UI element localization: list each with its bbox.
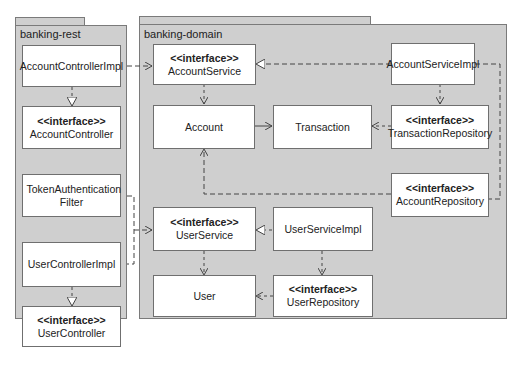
class-user-service-impl[interactable]: UserServiceImpl	[273, 207, 373, 251]
stereotype-label: <<interface>>	[406, 114, 474, 127]
class-name: UserRepository	[287, 296, 359, 309]
class-user-service[interactable]: <<interface>> UserService	[153, 207, 256, 251]
stereotype-label: <<interface>>	[406, 182, 474, 195]
class-name: AccountRepository	[396, 195, 484, 208]
class-name: Transaction	[295, 121, 349, 134]
class-account[interactable]: Account	[153, 105, 255, 149]
class-token-authentication-filter[interactable]: TokenAuthentication Filter	[22, 174, 121, 217]
class-name: TransactionRepository	[388, 127, 493, 140]
class-name: UserServiceImpl	[284, 223, 361, 236]
class-account-service-impl[interactable]: AccountServiceImpl	[391, 43, 475, 85]
class-name: AccountControllerImpl	[20, 60, 123, 73]
class-name: UserControllerImpl	[28, 258, 116, 271]
class-account-controller-impl[interactable]: AccountControllerImpl	[22, 45, 121, 87]
class-name: Account	[185, 121, 223, 134]
stereotype-label: <<interface>>	[289, 283, 357, 296]
class-name: UserController	[38, 327, 106, 340]
class-user[interactable]: User	[153, 275, 256, 317]
class-user-controller-impl[interactable]: UserControllerImpl	[22, 242, 121, 287]
stereotype-label: <<interface>>	[37, 115, 105, 128]
class-transaction-repository[interactable]: <<interface>> TransactionRepository	[391, 105, 489, 149]
class-transaction[interactable]: Transaction	[273, 105, 372, 149]
stereotype-label: <<interface>>	[37, 314, 105, 327]
class-account-repository[interactable]: <<interface>> AccountRepository	[391, 173, 489, 217]
class-name: AccountServiceImpl	[387, 58, 480, 71]
class-account-controller[interactable]: <<interface>> AccountController	[22, 106, 121, 149]
class-name: TokenAuthentication Filter	[27, 183, 117, 209]
class-user-controller[interactable]: <<interface>> UserController	[22, 306, 121, 347]
stereotype-label: <<interface>>	[170, 52, 238, 65]
class-name: UserService	[176, 229, 233, 242]
stereotype-label: <<interface>>	[170, 216, 238, 229]
class-account-service[interactable]: <<interface>> AccountService	[153, 44, 256, 85]
class-user-repository[interactable]: <<interface>> UserRepository	[273, 275, 373, 317]
class-name: AccountService	[168, 65, 241, 78]
class-name: User	[193, 290, 215, 303]
class-name: AccountController	[30, 128, 113, 141]
